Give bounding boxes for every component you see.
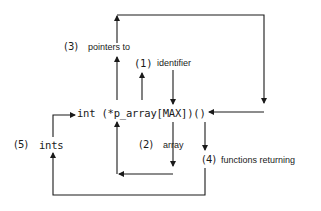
step-1-number: (1) xyxy=(134,58,152,69)
step-5-number: (5) xyxy=(14,140,28,150)
step-3-label: pointers to xyxy=(88,43,130,52)
step-2-number: (2) xyxy=(139,140,153,150)
step-1-label: identifier xyxy=(157,59,191,68)
step-4-label: functions returning xyxy=(221,156,295,165)
step-3-number: (3) xyxy=(64,42,78,52)
arrow-ints-to-int xyxy=(53,115,75,137)
step-5-label: ints xyxy=(39,140,64,151)
declaration-code: int (*p_array[MAX])() xyxy=(77,108,206,119)
arrow-paths xyxy=(0,0,321,211)
declaration-diagram: (3) pointers to (1) identifier int (*p_a… xyxy=(0,0,321,211)
step-4-number: (4) xyxy=(202,155,216,165)
step-2-label: array xyxy=(163,141,184,150)
